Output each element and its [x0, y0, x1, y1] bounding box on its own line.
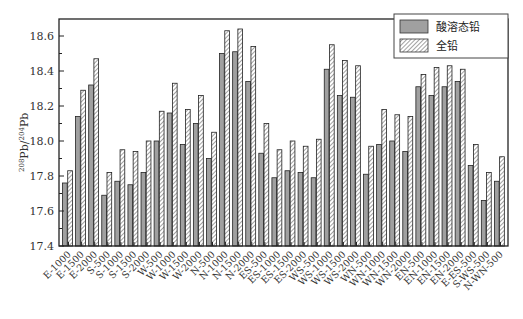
bar-acid-soluble	[76, 117, 81, 247]
legend-swatch-acid-soluble	[400, 20, 428, 33]
bar-acid-soluble	[377, 145, 382, 247]
bar-total	[460, 69, 465, 246]
bar-group	[429, 68, 439, 247]
bar-group	[364, 146, 374, 246]
bar-total	[264, 124, 269, 247]
y-tick-label: 18.4	[30, 65, 55, 78]
bar-total	[395, 115, 400, 246]
bar-group	[337, 61, 347, 247]
bar-acid-soluble	[481, 201, 486, 247]
bar-group	[128, 152, 138, 247]
bar-total	[408, 117, 413, 247]
bar-group	[193, 96, 203, 247]
bar-acid-soluble	[115, 181, 120, 246]
bar-acid-soluble	[455, 82, 460, 247]
bar-chart: 17.417.617.818.018.218.418.6 E-1000E-150…	[0, 0, 523, 319]
bar-group	[259, 124, 269, 247]
bar-group	[350, 66, 360, 246]
bar-group	[180, 110, 190, 247]
bar-acid-soluble	[63, 183, 68, 246]
y-tick-label: 17.6	[30, 205, 55, 218]
bar-total	[277, 150, 282, 246]
bar-acid-soluble	[259, 153, 264, 246]
bar-group	[154, 111, 164, 246]
bar-total	[172, 83, 177, 246]
bar-total	[212, 132, 217, 246]
bar-total	[94, 59, 99, 246]
bar-total	[290, 141, 295, 246]
bar-acid-soluble	[180, 145, 185, 247]
y-tick-label: 18.2	[30, 100, 55, 113]
y-tick-label: 17.8	[30, 170, 55, 183]
bar-group	[494, 157, 504, 246]
bar-acid-soluble	[494, 181, 499, 246]
bar-total	[447, 66, 452, 246]
bar-acid-soluble	[298, 173, 303, 247]
bar-total	[500, 157, 505, 246]
bar-total	[487, 173, 492, 247]
bar-total	[382, 110, 387, 247]
bar-group	[403, 117, 413, 247]
bar-acid-soluble	[233, 52, 238, 246]
legend-label-acid-soluble: 酸溶态铅	[436, 20, 480, 34]
bar-group	[63, 171, 73, 246]
bar-group	[206, 132, 216, 246]
bar-total	[473, 145, 478, 247]
bar-group	[455, 69, 465, 246]
bar-group	[285, 141, 295, 246]
bar-total	[369, 146, 374, 246]
bar-total	[434, 68, 439, 247]
bar-acid-soluble	[442, 87, 447, 246]
bar-acid-soluble	[324, 69, 329, 246]
bar-group	[233, 29, 243, 246]
y-axis-label: 208Pb/204Pb	[18, 113, 31, 172]
bar-group	[390, 115, 400, 246]
bar-total	[199, 96, 204, 247]
bar-group	[324, 45, 334, 246]
bar-acid-soluble	[285, 171, 290, 246]
x-axis: E-1000E-1500E-2000S-500S-1000S-1500S-200…	[41, 242, 505, 292]
bar-total	[133, 152, 138, 247]
y-tick-label: 17.4	[30, 240, 55, 253]
bar-group	[115, 150, 125, 246]
bar-acid-soluble	[154, 141, 159, 246]
bar-group	[102, 173, 112, 247]
bar-acid-soluble	[128, 185, 133, 246]
bar-acid-soluble	[193, 124, 198, 247]
bar-acid-soluble	[403, 152, 408, 247]
bar-acid-soluble	[246, 82, 251, 247]
bar-total	[159, 111, 164, 246]
bar-group	[167, 83, 177, 246]
bar-total	[107, 173, 112, 247]
bar-group	[481, 173, 491, 247]
bar-acid-soluble	[89, 85, 94, 246]
bar-acid-soluble	[141, 173, 146, 247]
bar-acid-soluble	[220, 54, 225, 247]
bar-acid-soluble	[272, 178, 277, 246]
bar-acid-soluble	[167, 113, 172, 246]
bar-acid-soluble	[311, 178, 316, 246]
bar-total	[421, 75, 426, 247]
legend-swatch-total	[400, 39, 428, 52]
legend: 酸溶态铅 全铅	[394, 14, 508, 58]
bar-acid-soluble	[390, 141, 395, 246]
bar-total	[356, 66, 361, 246]
bar-acid-soluble	[206, 159, 211, 247]
bar-group	[89, 59, 99, 246]
bar-acid-soluble	[416, 87, 421, 246]
y-tick-label: 18.6	[30, 30, 55, 43]
bar-acid-soluble	[337, 96, 342, 247]
bar-group	[220, 31, 230, 246]
bar-total	[316, 139, 321, 246]
bar-group	[246, 47, 256, 247]
bar-acid-soluble	[468, 166, 473, 247]
bar-total	[120, 150, 125, 246]
bar-total	[343, 61, 348, 247]
bar-acid-soluble	[102, 195, 107, 246]
bar-total	[251, 47, 256, 247]
bar-groups	[63, 29, 505, 246]
bar-group	[298, 146, 308, 246]
bar-group	[141, 141, 151, 246]
bar-total	[68, 171, 73, 246]
bar-total	[329, 45, 334, 246]
